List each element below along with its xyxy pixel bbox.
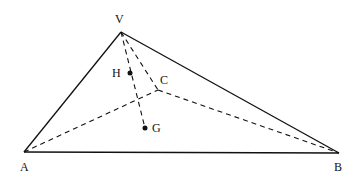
edge-AC <box>24 90 158 152</box>
point-G <box>143 126 148 131</box>
label-V: V <box>115 12 124 27</box>
label-H: H <box>112 66 121 81</box>
edge-CB <box>158 90 339 153</box>
label-B: B <box>334 160 342 175</box>
label-C: C <box>160 73 168 88</box>
label-A: A <box>20 160 29 175</box>
diagram-canvas <box>0 0 361 183</box>
edge-VA <box>24 32 121 152</box>
edge-AB <box>24 152 339 153</box>
segment-VG <box>121 32 145 128</box>
edge-VC <box>121 32 158 90</box>
label-G: G <box>152 121 161 136</box>
point-H <box>128 71 133 76</box>
tetrahedron-diagram: V A B C H G <box>0 0 361 183</box>
